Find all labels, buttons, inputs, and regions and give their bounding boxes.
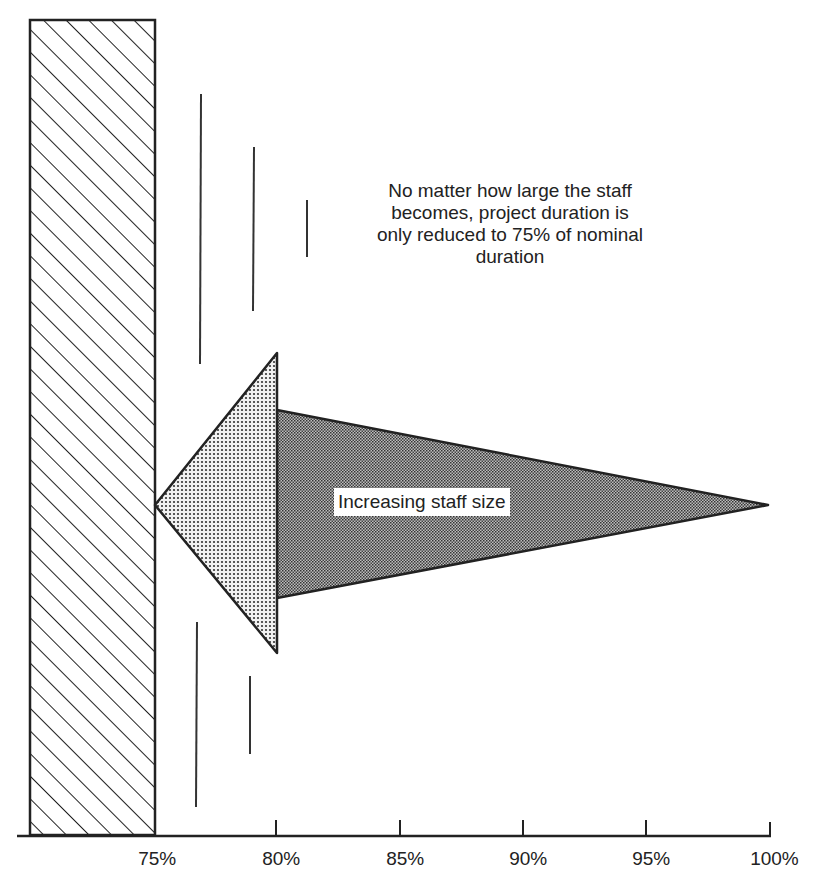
hatched-barrier-bar bbox=[30, 20, 155, 835]
axis-ticks bbox=[276, 820, 770, 836]
callout-line: becomes, project duration is bbox=[360, 202, 660, 224]
tick-label-95: 95% bbox=[632, 848, 670, 870]
tick-label-90: 90% bbox=[509, 848, 547, 870]
diagram-canvas bbox=[0, 0, 828, 889]
tick-label-85: 85% bbox=[386, 848, 424, 870]
callout-line: duration bbox=[360, 246, 660, 268]
callout-line: only reduced to 75% of nominal bbox=[360, 224, 660, 246]
arrow-head bbox=[155, 353, 277, 653]
arrow-label: Increasing staff size bbox=[334, 488, 510, 516]
callout-line: No matter how large the staff bbox=[360, 180, 660, 202]
motion-lines-lower bbox=[196, 622, 250, 807]
tick-label-80: 80% bbox=[262, 848, 300, 870]
motion-lines-upper bbox=[200, 94, 307, 364]
tick-label-75: 75% bbox=[138, 848, 176, 870]
tick-label-100: 100% bbox=[750, 848, 799, 870]
callout-text: No matter how large the staff becomes, p… bbox=[360, 180, 660, 268]
